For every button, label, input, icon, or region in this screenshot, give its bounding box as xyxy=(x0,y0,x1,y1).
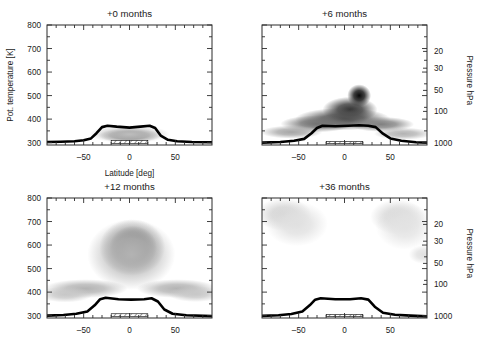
xtick-label: 50 xyxy=(386,326,396,335)
panel-title: +36 months xyxy=(319,181,370,192)
pressure-tick-label: 100 xyxy=(434,107,448,116)
ytick-label: 800 xyxy=(27,21,41,30)
ytick-label: 600 xyxy=(27,68,41,77)
pressure-tick-label: 30 xyxy=(434,64,444,73)
panel-title: +0 months xyxy=(107,8,152,19)
xtick-label: 50 xyxy=(171,326,181,335)
plot-area-p12 xyxy=(38,198,223,318)
xtick-label: 0 xyxy=(342,326,347,335)
pressure-axis-title: Pressure hPa xyxy=(465,228,474,278)
tracer-blob xyxy=(38,286,93,302)
xtick-label: ‒50 xyxy=(292,326,306,335)
pressure-tick-label: 20 xyxy=(434,47,444,56)
plot-area-p0 xyxy=(47,25,212,145)
ytick-label: 500 xyxy=(27,265,41,274)
ytick-label: 700 xyxy=(27,218,41,227)
tracer-blob xyxy=(266,202,328,247)
pressure-tick-label: 50 xyxy=(434,259,444,268)
tracer-blob xyxy=(87,219,175,290)
plot-area-p6 xyxy=(260,25,432,145)
pressure-tick-label: 30 xyxy=(434,237,444,246)
xtick-label: 0 xyxy=(127,326,132,335)
pressure-tick-label: 100 xyxy=(434,280,448,289)
pressure-tick-label: 20 xyxy=(434,220,444,229)
ytick-label: 700 xyxy=(27,45,41,54)
ytick-label: 400 xyxy=(27,288,41,297)
ytick-label: 300 xyxy=(27,312,41,321)
figure-panel-grid: ‒50050300400500600700800+0 monthsPot. te… xyxy=(0,0,488,346)
xtick-label: ‒50 xyxy=(77,326,91,335)
panel-title: +12 months xyxy=(104,181,155,192)
y-axis-title: Pot. temperature [K] xyxy=(6,48,15,121)
panel-p36: ‒500502030501001000Pressure hPa+36 month… xyxy=(210,146,479,346)
pressure-tick-label: 1000 xyxy=(434,312,453,321)
ytick-label: 800 xyxy=(27,194,41,203)
pressure-axis-title: Pressure hPa xyxy=(465,55,474,105)
ytick-label: 400 xyxy=(27,115,41,124)
panel-title: +6 months xyxy=(322,8,367,19)
pressure-tick-label: 50 xyxy=(434,86,444,95)
ytick-label: 500 xyxy=(27,92,41,101)
plot-area-p36 xyxy=(257,198,439,318)
ytick-label: 600 xyxy=(27,241,41,250)
